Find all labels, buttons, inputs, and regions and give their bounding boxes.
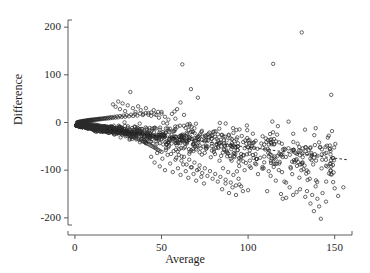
y-tick-label: -200 (40, 212, 61, 223)
y-tick-label: -100 (40, 164, 61, 175)
y-tick-label: 100 (44, 69, 61, 80)
plot-canvas (0, 0, 370, 273)
y-tick-label: 200 (44, 21, 61, 32)
bland-altman-scatter-figure: 2001000-100-200 050100150 Average Differ… (0, 0, 370, 273)
y-axis-title: Difference (11, 50, 26, 150)
x-axis-title: Average (0, 252, 370, 267)
data-points (75, 31, 345, 221)
y-tick-label: 0 (55, 117, 61, 128)
